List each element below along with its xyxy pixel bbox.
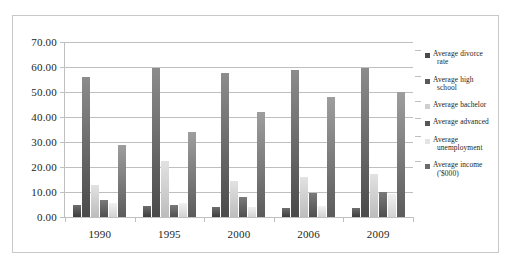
x-axis-tick [135, 217, 136, 222]
bar [379, 192, 387, 217]
x-axis-tick [343, 217, 344, 222]
legend-connector-tick [415, 101, 421, 102]
x-axis-tick [204, 217, 205, 222]
bar [118, 145, 126, 218]
x-axis-label: 2009 [367, 228, 390, 240]
legend-connector-tick [415, 118, 421, 119]
legend-swatch-icon [425, 53, 430, 58]
bar [188, 132, 196, 217]
bar-group [204, 42, 274, 217]
chart-container: 70.0060.0050.0040.0030.0020.0010.000.00 … [12, 15, 499, 253]
x-axis-tick [65, 217, 66, 222]
bar [152, 68, 160, 217]
legend-connector-tick [415, 50, 421, 51]
gridline [65, 217, 413, 218]
bar [352, 208, 360, 217]
x-axis-label: 2006 [297, 228, 320, 240]
bar [282, 208, 290, 217]
legend-label: Average highschool [433, 76, 474, 93]
bar [82, 77, 90, 217]
legend-label: Average bachelor [433, 101, 486, 109]
chart-legend: Average divorcerateAverage highschoolAve… [425, 50, 497, 187]
x-axis-label: 1995 [158, 228, 181, 240]
y-axis-label: 0.00 [37, 211, 57, 223]
legend-label-line: Average bachelor [433, 101, 486, 109]
bar [388, 194, 396, 217]
legend-label: Average advanced [433, 118, 489, 126]
bar [179, 203, 187, 217]
y-axis-label: 10.00 [31, 186, 57, 198]
bar [248, 207, 256, 217]
bar [291, 70, 299, 217]
legend-swatch-icon [425, 104, 430, 109]
y-axis-label: 70.00 [31, 36, 57, 48]
x-axis-label: 1990 [88, 228, 111, 240]
legend-item: Average divorcerate [425, 50, 497, 67]
legend-label-line: unemployment [433, 144, 483, 152]
legend-label: Average income('$000) [433, 161, 482, 178]
bar [212, 207, 220, 217]
bar-group [274, 42, 344, 217]
bar [370, 174, 378, 217]
bar [239, 197, 247, 217]
bar [318, 206, 326, 218]
y-axis-label: 60.00 [31, 61, 57, 73]
x-axis-tick [274, 217, 275, 222]
legend-item: Average bachelor [425, 101, 497, 109]
legend-label: Averageunemployment [433, 136, 483, 153]
legend-item: Averageunemployment [425, 136, 497, 153]
y-axis-label: 30.00 [31, 136, 57, 148]
bar [161, 161, 169, 217]
bar [221, 73, 229, 217]
legend-swatch-icon [425, 121, 430, 126]
bar [361, 68, 369, 217]
x-axis-label: 2000 [228, 228, 251, 240]
bar [309, 193, 317, 217]
y-axis-label: 50.00 [31, 86, 57, 98]
plot-area: 70.0060.0050.0040.0030.0020.0010.000.00 … [65, 42, 413, 217]
bar-group [65, 42, 135, 217]
legend-connector-tick [415, 161, 421, 162]
bar [397, 92, 405, 218]
legend-item: Average income('$000) [425, 161, 497, 178]
legend-label-line: Average advanced [433, 118, 489, 126]
bar [230, 181, 238, 218]
legend-swatch-icon [425, 79, 430, 84]
x-axis-tick [413, 217, 414, 222]
legend-label-line: ('$000) [433, 170, 482, 178]
legend-swatch-icon [425, 164, 430, 169]
legend-label: Average divorcerate [433, 50, 483, 67]
bar [170, 205, 178, 217]
legend-connector-tick [415, 136, 421, 137]
bar [257, 112, 265, 217]
y-axis-label: 20.00 [31, 161, 57, 173]
y-axis-label: 40.00 [31, 111, 57, 123]
bar [91, 185, 99, 217]
bar [100, 200, 108, 217]
bar [143, 206, 151, 217]
bar [73, 205, 81, 217]
legend-label-line: school [433, 84, 474, 92]
bar [300, 177, 308, 218]
legend-item: Average highschool [425, 76, 497, 93]
bar-group [135, 42, 205, 217]
bar-group [343, 42, 413, 217]
legend-item: Average advanced [425, 118, 497, 126]
legend-connector-tick [415, 76, 421, 77]
legend-label-line: rate [433, 58, 483, 66]
bar [327, 97, 335, 218]
bar [109, 203, 117, 217]
legend-swatch-icon [425, 139, 430, 144]
